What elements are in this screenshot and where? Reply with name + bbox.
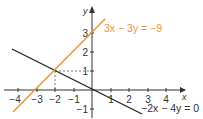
y-tick-label: −1	[77, 104, 89, 115]
x-axis-label: x	[181, 92, 187, 102]
chart: −4 −3 −2 −1 1 2 3 4 3 2 1 −1 x y 3x − 3y…	[0, 0, 203, 119]
x-tick-label: 2	[126, 94, 132, 105]
y-tick-label: 1	[82, 66, 88, 77]
x-tick-label: −2	[49, 94, 61, 105]
eq1-label: 3x − 3y = −9	[104, 22, 162, 34]
y-axis-label: y	[82, 6, 88, 16]
eq2-label: −2x − 4y = 0	[141, 102, 199, 114]
x-tick-label: −4	[9, 94, 21, 105]
y-axis-arrow-icon	[89, 6, 95, 13]
y-tick-label: 2	[82, 47, 88, 58]
x-tick-label: −3	[31, 94, 43, 105]
